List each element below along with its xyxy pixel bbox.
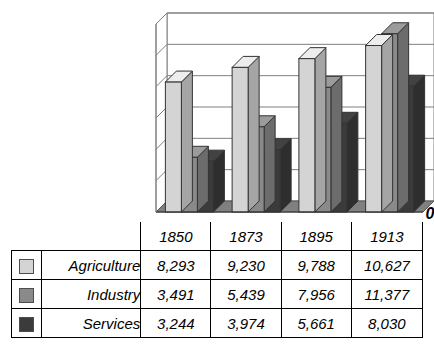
- table-row: Agriculture 8,293 9,230 9,788 10,627: [12, 251, 423, 280]
- bar-agriculture-1913: [366, 35, 393, 212]
- plot-svg: [145, 0, 434, 225]
- bar-agriculture-1895: [299, 48, 326, 212]
- bar-agriculture-1873: [232, 56, 259, 212]
- cell-industry-1913: 11,377: [351, 280, 422, 309]
- cell-industry-1850: 3,491: [141, 280, 211, 309]
- header-year-1850: 1850: [141, 222, 211, 251]
- table-header-row: 1850 1873 1895 1913: [12, 222, 423, 251]
- table-row: Services 3,244 3,974 5,661 8,030: [12, 309, 423, 338]
- cell-services-1913: 8,030: [351, 309, 422, 338]
- cell-industry-1895: 7,956: [281, 280, 351, 309]
- plot-area: [145, 0, 434, 225]
- series-label-industry: Industry: [42, 280, 141, 309]
- header-year-1913: 1913: [351, 222, 422, 251]
- cell-agriculture-1850: 8,293: [141, 251, 211, 280]
- color-swatch-icon: [19, 288, 34, 303]
- cell-agriculture-1913: 10,627: [351, 251, 422, 280]
- series-label-agriculture: Agriculture: [42, 251, 141, 280]
- cell-services-1850: 3,244: [141, 309, 211, 338]
- cell-services-1895: 5,661: [281, 309, 351, 338]
- cell-industry-1873: 5,439: [211, 280, 281, 309]
- cell-agriculture-1895: 9,788: [281, 251, 351, 280]
- header-blank-name: [42, 222, 141, 251]
- bar-chart-3d: 12,000 10,000 8,000 6,000 4,000 2,000 0: [0, 0, 434, 225]
- color-swatch-icon: [19, 317, 34, 332]
- legend-swatch-industry: [12, 280, 42, 309]
- chart-figure: 12,000 10,000 8,000 6,000 4,000 2,000 0: [0, 0, 434, 355]
- legend-swatch-services: [12, 309, 42, 338]
- table-row: Industry 3,491 5,439 7,956 11,377: [12, 280, 423, 309]
- data-table: 1850 1873 1895 1913 Agriculture 8,293 9,…: [11, 222, 423, 338]
- color-swatch-icon: [19, 259, 34, 274]
- cell-agriculture-1873: 9,230: [211, 251, 281, 280]
- header-year-1873: 1873: [211, 222, 281, 251]
- cell-services-1873: 3,974: [211, 309, 281, 338]
- data-table-wrapper: 1850 1873 1895 1913 Agriculture 8,293 9,…: [11, 222, 423, 338]
- legend-swatch-agriculture: [12, 251, 42, 280]
- header-year-1895: 1895: [281, 222, 351, 251]
- header-blank-swatch: [12, 222, 42, 251]
- series-label-services: Services: [42, 309, 141, 338]
- bar-agriculture-1850: [165, 71, 192, 212]
